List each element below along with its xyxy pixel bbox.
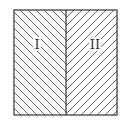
region-1-label: I: [34, 37, 39, 52]
hatched-square-diagram: I II: [0, 0, 127, 121]
region-2-label: II: [90, 37, 100, 52]
